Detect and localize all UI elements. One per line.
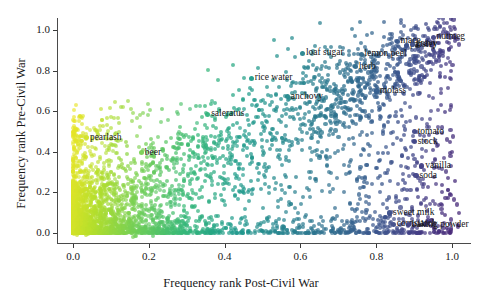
data-point	[438, 75, 442, 79]
data-point	[74, 230, 78, 234]
data-point	[86, 222, 90, 226]
data-point	[101, 216, 105, 220]
data-point	[276, 231, 280, 235]
data-point	[403, 127, 407, 131]
data-point	[100, 195, 104, 199]
data-point	[198, 217, 202, 221]
data-point	[245, 139, 249, 143]
data-point	[94, 209, 98, 213]
data-point	[128, 228, 132, 232]
data-point	[220, 228, 224, 232]
data-point	[411, 153, 415, 157]
data-point	[74, 226, 78, 230]
data-point	[130, 228, 134, 232]
data-point	[313, 107, 317, 111]
data-point	[338, 227, 342, 231]
data-point	[420, 182, 424, 186]
data-point	[228, 222, 232, 226]
data-point	[71, 206, 75, 210]
data-point	[272, 108, 276, 112]
data-point	[419, 231, 423, 235]
data-point	[263, 162, 267, 166]
data-point	[73, 215, 77, 219]
data-point	[256, 222, 260, 226]
data-point	[241, 190, 245, 194]
data-point	[291, 115, 295, 119]
data-point	[79, 142, 83, 146]
data-point	[74, 187, 78, 191]
data-point	[356, 84, 360, 88]
data-point	[77, 229, 81, 233]
data-point	[76, 226, 80, 230]
data-point	[71, 223, 75, 227]
data-point	[317, 222, 321, 226]
data-point	[296, 231, 300, 235]
data-point	[349, 228, 353, 232]
data-point	[399, 30, 403, 34]
data-point	[98, 213, 102, 217]
data-point	[71, 228, 75, 232]
data-point	[168, 229, 172, 233]
data-point	[71, 231, 75, 235]
data-point	[200, 115, 204, 119]
data-point	[78, 230, 82, 234]
data-point	[102, 220, 106, 224]
data-point	[173, 201, 177, 205]
data-point	[149, 174, 153, 178]
data-point	[79, 134, 83, 138]
data-point	[77, 203, 81, 207]
data-point	[81, 225, 85, 229]
data-point	[71, 231, 75, 235]
data-point	[408, 87, 412, 91]
data-point	[103, 227, 107, 231]
data-point	[191, 151, 195, 155]
data-point	[71, 227, 75, 231]
data-point	[285, 228, 289, 232]
data-point	[73, 223, 77, 227]
data-point	[78, 208, 82, 212]
data-point	[411, 172, 415, 176]
data-point	[396, 229, 400, 233]
data-point	[165, 179, 169, 183]
data-point	[418, 74, 422, 78]
data-point	[79, 195, 83, 199]
data-point	[220, 137, 224, 141]
data-point	[377, 108, 381, 112]
data-point	[373, 95, 377, 99]
data-point	[162, 194, 166, 198]
data-point	[71, 202, 75, 206]
data-point	[357, 175, 361, 179]
data-point	[110, 143, 114, 147]
data-point	[72, 230, 76, 234]
data-point	[440, 203, 444, 207]
data-point	[441, 54, 445, 58]
data-point	[316, 230, 320, 234]
data-point	[302, 65, 306, 69]
data-point	[411, 139, 415, 143]
data-point	[394, 200, 398, 204]
data-point	[71, 189, 75, 193]
data-point	[111, 228, 115, 232]
data-point	[72, 184, 76, 188]
data-point	[80, 231, 84, 235]
data-point	[325, 107, 329, 111]
data-point	[210, 179, 214, 183]
data-point	[247, 199, 251, 203]
data-point	[151, 234, 155, 238]
data-point	[141, 230, 145, 234]
data-point	[120, 206, 124, 210]
data-point	[316, 131, 320, 135]
data-point	[114, 217, 118, 221]
data-point	[442, 231, 446, 235]
data-point	[83, 193, 87, 197]
data-point	[283, 133, 287, 137]
data-point	[74, 220, 78, 224]
data-point	[159, 209, 163, 213]
data-point	[140, 231, 144, 235]
data-point	[80, 230, 84, 234]
data-point	[71, 133, 75, 137]
data-point	[102, 231, 106, 235]
data-point	[71, 231, 75, 235]
data-point	[162, 231, 166, 235]
data-point	[153, 228, 157, 232]
